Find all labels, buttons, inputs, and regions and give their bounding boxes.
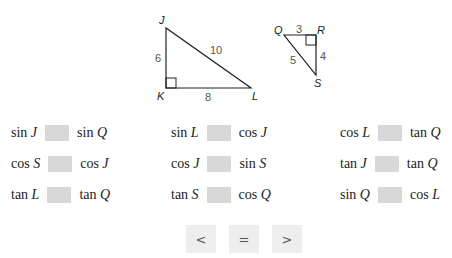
- right-variable: Q: [427, 156, 437, 172]
- vertex-label-j: J: [158, 14, 165, 26]
- side-label-jk: 6: [155, 52, 161, 64]
- left-function: tan: [11, 187, 28, 203]
- answer-drop-box[interactable]: [45, 125, 69, 141]
- side-label-kl: 8: [205, 91, 211, 103]
- left-function: cos: [171, 156, 190, 172]
- right-function: tan: [79, 187, 96, 203]
- answer-drop-box[interactable]: [207, 156, 231, 172]
- right-variable: S: [259, 156, 266, 172]
- right-variable: J: [261, 125, 267, 141]
- left-variable: Q: [360, 187, 370, 203]
- answer-drop-box[interactable]: [378, 125, 402, 141]
- right-variable: J: [102, 156, 108, 172]
- vertex-label-k: K: [157, 90, 165, 102]
- comparison-item: cos J sin S: [171, 156, 266, 172]
- vertex-label-s: S: [314, 77, 322, 89]
- right-variable: Q: [261, 187, 271, 203]
- comparison-item: tan S cos Q: [171, 187, 271, 203]
- vertex-label-r: R: [317, 24, 325, 36]
- right-variable: Q: [431, 125, 441, 141]
- left-variable: S: [192, 187, 199, 203]
- comparison-item: cos S cos J: [11, 156, 109, 172]
- left-variable: J: [361, 156, 367, 172]
- left-function: sin: [340, 187, 356, 203]
- comparison-item: sin J sin Q: [11, 125, 107, 141]
- answer-drop-box[interactable]: [207, 125, 231, 141]
- left-variable: J: [193, 156, 199, 172]
- side-label-jl: 10: [210, 44, 222, 56]
- side-label-rs: 4: [320, 50, 326, 62]
- right-function: tan: [410, 125, 427, 141]
- left-function: sin: [171, 125, 187, 141]
- right-function: cos: [239, 125, 258, 141]
- comparison-item: sin Q cos L: [340, 187, 440, 203]
- comparison-item: cos L tan Q: [340, 125, 441, 141]
- right-angle-marker-k: [166, 78, 176, 88]
- less-than-button[interactable]: <: [186, 225, 216, 253]
- left-variable: L: [362, 125, 370, 141]
- left-variable: S: [33, 156, 40, 172]
- vertex-label-l: L: [252, 90, 258, 102]
- right-function: cos: [410, 187, 429, 203]
- right-variable: Q: [100, 187, 110, 203]
- comparison-item: sin L cos J: [171, 125, 267, 141]
- right-function: cos: [80, 156, 99, 172]
- answer-drop-box[interactable]: [48, 156, 72, 172]
- vertex-label-q: Q: [274, 24, 283, 36]
- comparison-item: tan J tan Q: [340, 156, 438, 172]
- left-function: sin: [11, 125, 27, 141]
- left-function: cos: [340, 125, 359, 141]
- right-function: sin: [239, 156, 255, 172]
- right-variable: L: [432, 187, 440, 203]
- left-variable: L: [32, 187, 40, 203]
- right-function: tan: [407, 156, 424, 172]
- right-angle-marker-r: [306, 35, 316, 45]
- side-label-qr: 3: [296, 23, 302, 35]
- side-label-qs: 5: [290, 54, 296, 66]
- answer-drop-box[interactable]: [375, 156, 399, 172]
- triangle-figure: J K L 6 8 10 Q R S 3 4 5: [0, 0, 452, 110]
- left-variable: L: [191, 125, 199, 141]
- equals-button[interactable]: =: [229, 225, 259, 253]
- right-function: cos: [239, 187, 258, 203]
- left-function: cos: [11, 156, 30, 172]
- triangle-qrs: [284, 35, 316, 75]
- greater-than-button[interactable]: >: [272, 225, 302, 253]
- answer-drop-box[interactable]: [47, 187, 71, 203]
- right-function: sin: [77, 125, 93, 141]
- comparison-item: tan L tan Q: [11, 187, 110, 203]
- left-function: tan: [171, 187, 188, 203]
- right-variable: Q: [97, 125, 107, 141]
- answer-drop-box[interactable]: [207, 187, 231, 203]
- left-function: tan: [340, 156, 357, 172]
- triangle-jkl: [166, 28, 251, 88]
- left-variable: J: [31, 125, 37, 141]
- answer-drop-box[interactable]: [378, 187, 402, 203]
